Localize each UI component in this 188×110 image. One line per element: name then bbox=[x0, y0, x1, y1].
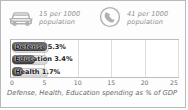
bar-row: Education 3.4% bbox=[11, 53, 178, 66]
stat-cars-text: 15 per 1000 population bbox=[39, 11, 80, 26]
x-axis: 0510152025 bbox=[10, 79, 179, 88]
x-tick-label: 0 bbox=[10, 79, 14, 87]
gridline bbox=[178, 40, 179, 77]
infographic-card: 15 per 1000 population 41 per 1000 popul… bbox=[0, 0, 186, 108]
car-icon bbox=[8, 8, 34, 31]
bar-value-label: Health 1.7% bbox=[15, 67, 60, 77]
stat-telephones-text: 41 per 1000 population bbox=[127, 11, 168, 26]
x-tick-label: 10 bbox=[74, 79, 82, 87]
telephone-icon bbox=[98, 5, 122, 33]
bar-chart-plot-area: Defense 5.3%Education 3.4%Health 1.7% bbox=[10, 39, 179, 78]
x-tick-label: 15 bbox=[107, 79, 115, 87]
x-tick-label: 20 bbox=[141, 79, 149, 87]
stat-cars: 15 per 1000 population bbox=[8, 8, 93, 31]
bar-row: Health 1.7% bbox=[11, 65, 178, 78]
stat-telephones: 41 per 1000 population bbox=[98, 5, 168, 33]
bar-row: Defense 5.3% bbox=[11, 40, 178, 53]
stats-strip: 15 per 1000 population 41 per 1000 popul… bbox=[1, 1, 185, 37]
bar-value-label: Defense 5.3% bbox=[15, 42, 66, 52]
stat-cars-line2: population bbox=[39, 19, 80, 27]
x-tick-label: 5 bbox=[42, 79, 46, 87]
stat-telephones-line2: population bbox=[127, 19, 168, 27]
chart-caption: Defense, Health, Education spending as %… bbox=[7, 89, 181, 98]
bar-value-label: Education 3.4% bbox=[15, 54, 73, 64]
x-tick-label: 25 bbox=[170, 79, 178, 87]
